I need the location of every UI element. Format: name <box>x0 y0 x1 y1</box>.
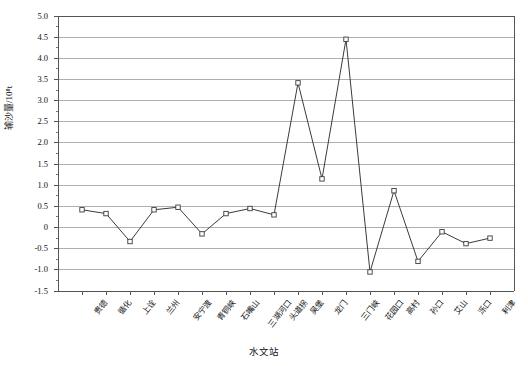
data-point-marker <box>200 232 204 236</box>
data-point-marker <box>104 211 108 215</box>
sediment-transport-line-chart: 输沙量/10⁸t 5.04.54.03.53.02.52.01.51.00.50… <box>0 0 528 366</box>
plot-background <box>58 16 514 291</box>
y-axis-ticks <box>54 16 58 291</box>
plot-area <box>0 0 528 366</box>
data-point-marker <box>368 270 372 274</box>
data-point-marker <box>344 37 348 41</box>
data-point-marker <box>320 177 324 181</box>
data-point-marker <box>272 213 276 217</box>
data-point-marker <box>248 206 252 210</box>
data-point-marker <box>176 205 180 209</box>
x-axis-ticks <box>82 291 490 295</box>
data-point-marker <box>152 208 156 212</box>
data-point-marker <box>488 236 492 240</box>
data-point-marker <box>416 259 420 263</box>
data-point-marker <box>224 211 228 215</box>
data-point-marker <box>296 81 300 85</box>
x-axis-title: 水文站 <box>0 344 528 358</box>
data-point-marker <box>440 230 444 234</box>
data-point-marker <box>128 239 132 243</box>
data-point-marker <box>392 189 396 193</box>
data-point-marker <box>464 241 468 245</box>
data-point-marker <box>80 208 84 212</box>
